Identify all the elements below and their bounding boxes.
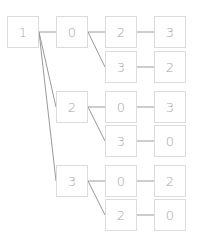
edge-n7-n10 [88, 107, 105, 141]
node-root: 1 [7, 16, 39, 48]
node-l2-c1: 0 [105, 165, 137, 197]
edge-n12-n15 [88, 181, 105, 215]
edge-n1-n12 [39, 32, 56, 181]
node-l3-b1: 3 [154, 91, 186, 123]
node-l3-b2: 0 [154, 125, 186, 157]
node-l2-b1: 0 [105, 91, 137, 123]
node-l2-a2: 3 [105, 51, 137, 83]
node-l2-a1: 2 [105, 16, 137, 48]
node-l3-c2: 0 [154, 199, 186, 231]
node-l3-c1: 2 [154, 165, 186, 197]
node-l3-a1: 3 [154, 16, 186, 48]
edge-n1-n7 [39, 32, 56, 107]
node-l2-b2: 3 [105, 125, 137, 157]
edge-n2-n5 [88, 32, 105, 67]
node-l1-a: 0 [56, 16, 88, 48]
node-l3-a2: 2 [154, 51, 186, 83]
node-l2-c2: 2 [105, 199, 137, 231]
tree-diagram: 1 0 2 3 3 2 2 0 3 3 0 3 0 2 2 0 [0, 0, 197, 242]
node-l1-b: 2 [56, 91, 88, 123]
node-l1-c: 3 [56, 165, 88, 197]
